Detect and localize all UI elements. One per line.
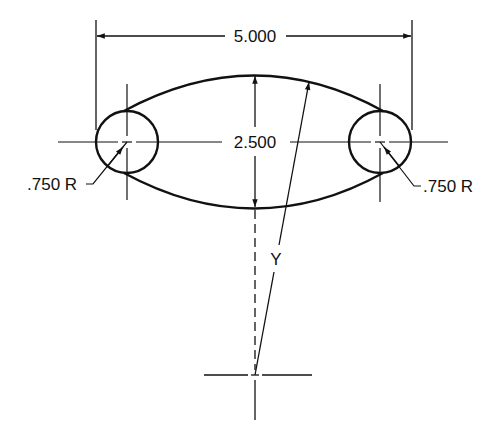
y-radius-line-upper — [279, 82, 309, 245]
y-radius-line-lower — [255, 272, 274, 375]
arc-radius-label: Y — [270, 250, 281, 269]
center-height-label: 2.500 — [234, 133, 277, 152]
right-radius-label: .750 R — [423, 177, 473, 196]
left-radius-leader — [86, 142, 127, 184]
upper-arc — [124, 76, 383, 112]
left-radius-label: .750 R — [27, 175, 77, 194]
engineering-drawing: 5.000 2.500 .750 R .750 R Y — [0, 0, 498, 442]
overall-width-label: 5.000 — [234, 27, 277, 46]
lower-arc — [124, 173, 383, 209]
